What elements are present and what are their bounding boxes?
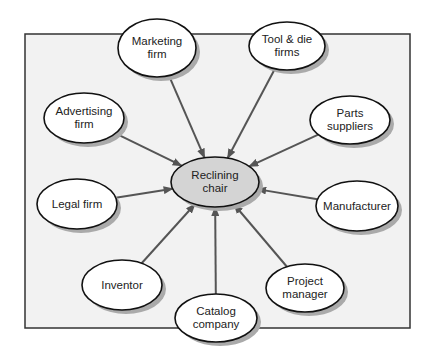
- label-line: Tool & die: [262, 33, 313, 46]
- label-line: Catalog: [193, 305, 240, 318]
- label-line: Marketing: [132, 35, 183, 48]
- label-line: firm: [132, 48, 183, 61]
- label-line: Manufacturer: [323, 200, 391, 213]
- label-line: company: [193, 318, 240, 331]
- label-line: Inventor: [101, 279, 143, 292]
- node-inventor-label: Inventor: [101, 279, 143, 292]
- node-marketing-label: Marketingfirm: [132, 35, 183, 61]
- arrow-catalog-to-center: [215, 207, 216, 294]
- label-line: Project: [282, 275, 327, 288]
- node-tooldie-label: Tool & diefirms: [262, 33, 313, 59]
- label-line: Legal firm: [52, 198, 103, 211]
- node-manufacturer-label: Manufacturer: [323, 200, 391, 213]
- label-line: Advertising: [56, 105, 113, 118]
- node-center-label: Recliningchair: [191, 169, 238, 195]
- node-parts-label: Partssuppliers: [327, 107, 373, 133]
- label-line: chair: [191, 182, 238, 195]
- label-line: firm: [56, 118, 113, 131]
- label-line: suppliers: [327, 120, 373, 133]
- label-line: Reclining: [191, 169, 238, 182]
- label-line: Parts: [327, 107, 373, 120]
- label-line: firms: [262, 46, 313, 59]
- node-advertising-label: Advertisingfirm: [56, 105, 113, 131]
- node-catalog-label: Catalogcompany: [193, 305, 240, 331]
- label-line: manager: [282, 288, 327, 301]
- node-legal-label: Legal firm: [52, 198, 103, 211]
- node-project-label: Projectmanager: [282, 275, 327, 301]
